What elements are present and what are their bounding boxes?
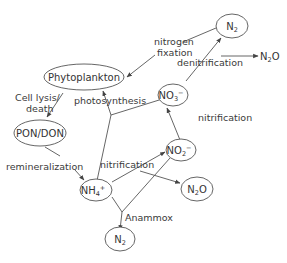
node-n2-top: N2 [216,14,248,38]
edge-remineralization-a [45,147,60,156]
node-nh4: NH4+ [80,179,112,201]
edge-nitrification-no3 [167,108,180,140]
nitrogen-cycle-diagram: Phytoplankton PON/DON NH4+ NO2− NO3− N2 … [0,0,287,263]
label-remineralization: remineralization [6,161,83,172]
label-anammox: Anammox [125,212,173,223]
edge-anammox-nh4 [112,197,122,212]
node-phytoplankton: Phytoplankton [44,64,124,90]
label-photosynthesis: photosynthesis [74,95,146,106]
node-n2o-right: N2O [181,177,213,201]
label-nitrogen-fixation-line1: nitrogen [154,36,194,47]
pon-don-label: PON/DON [16,128,64,139]
node-no2: NO2− [166,139,196,161]
n2o-top-label: N2O [260,51,280,64]
edge-nitrogen-fixation-2 [127,55,155,77]
label-nitrification-lower: nitrification [100,159,154,170]
node-pon-don: PON/DON [14,120,66,146]
edge-nitrification-n2o [140,171,180,183]
label-cell-lysis-line1: Cell lysis/ [15,92,61,103]
phytoplankton-label: Phytoplankton [48,72,120,83]
node-no3: NO3− [158,84,188,106]
label-denitrification: denitrification [177,57,243,68]
node-n2-bottom: N2 [105,227,135,251]
label-nitrification-upper: nitrification [198,112,252,123]
label-cell-lysis-line2: death [26,103,53,114]
node-n2o-top: N2O [260,51,280,64]
